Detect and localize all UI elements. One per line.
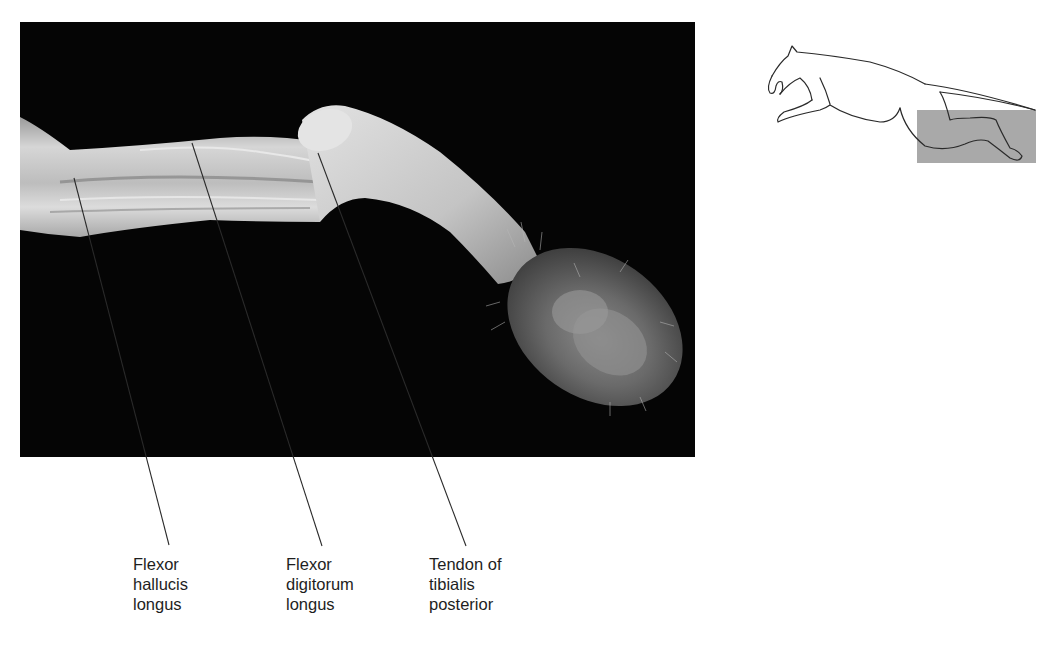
label-line: tibialis (429, 574, 501, 594)
label-line: longus (133, 594, 188, 614)
label-flexor-digitorum-longus: Flexor digitorum longus (286, 554, 354, 614)
label-line: hallucis (133, 574, 188, 594)
label-flexor-hallucis-longus: Flexor hallucis longus (133, 554, 188, 614)
label-line: longus (286, 594, 354, 614)
label-line: Flexor (133, 554, 188, 574)
cat-locator-diagram (755, 40, 1045, 180)
label-line: digitorum (286, 574, 354, 594)
dissection-photo (20, 22, 695, 457)
limb-illustration (20, 22, 695, 457)
label-line: Flexor (286, 554, 354, 574)
label-line: posterior (429, 594, 501, 614)
label-tendon-tibialis-posterior: Tendon of tibialis posterior (429, 554, 501, 614)
label-line: Tendon of (429, 554, 501, 574)
